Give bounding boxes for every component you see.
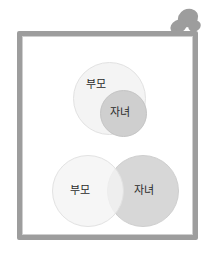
photo-frame: 부모 자녀 부모 자녀 — [17, 31, 198, 240]
venn-label-parent: 부모 — [70, 185, 90, 196]
illustration-canvas: 부모 자녀 부모 자녀 — [0, 0, 219, 262]
venn-label-parent: 부모 — [86, 79, 106, 90]
venn-label-child: 자녀 — [134, 185, 154, 196]
venn-diagram-subset: 부모 자녀 — [73, 62, 149, 138]
venn-diagram-overlap: 부모 자녀 — [52, 155, 180, 229]
venn-label-child: 자녀 — [110, 107, 130, 118]
